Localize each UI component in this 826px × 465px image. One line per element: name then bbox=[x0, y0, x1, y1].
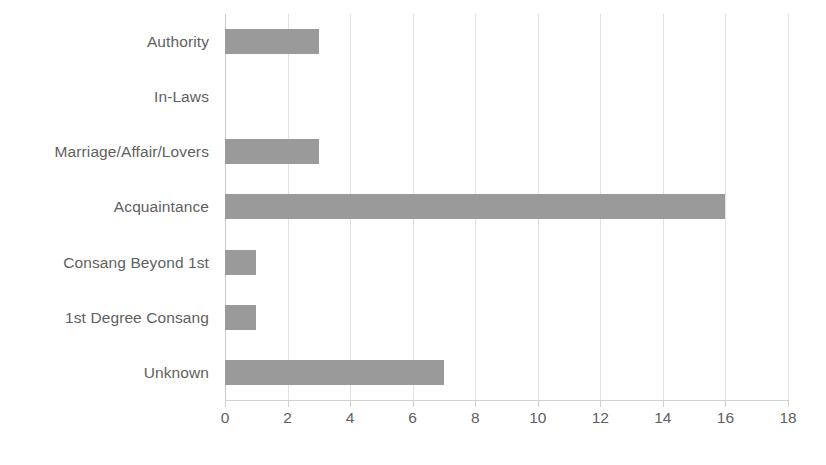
category-label-cell: Authority bbox=[0, 14, 218, 69]
category-label: Marriage/Affair/Lovers bbox=[55, 143, 209, 160]
category-label-cell: Marriage/Affair/Lovers bbox=[0, 124, 218, 179]
x-axis-tick-label: 8 bbox=[471, 409, 480, 427]
category-label: 1st Degree Consang bbox=[65, 309, 209, 326]
bar bbox=[225, 360, 444, 385]
bar-row bbox=[225, 179, 788, 234]
x-axis-tick-mark bbox=[413, 400, 414, 407]
plot-area bbox=[225, 14, 788, 400]
x-axis-tick-label: 18 bbox=[779, 409, 796, 427]
category-label: Acquaintance bbox=[114, 198, 209, 215]
x-axis-tick-mark bbox=[600, 400, 601, 407]
x-axis-tick-label: 6 bbox=[408, 409, 417, 427]
category-label-cell: In-Laws bbox=[0, 69, 218, 124]
x-axis-tick-mark bbox=[350, 400, 351, 407]
x-axis-tick-labels: 024681012141618 bbox=[225, 409, 788, 435]
bar-row bbox=[225, 345, 788, 400]
x-axis-tick-label: 12 bbox=[592, 409, 609, 427]
x-axis-tick-mark bbox=[788, 400, 789, 407]
x-axis-tick-mark bbox=[288, 400, 289, 407]
x-axis-tick-label: 16 bbox=[717, 409, 734, 427]
category-axis: AuthorityIn-LawsMarriage/Affair/LoversAc… bbox=[0, 14, 218, 400]
category-label: Unknown bbox=[144, 364, 209, 381]
bar-row bbox=[225, 290, 788, 345]
bar-row bbox=[225, 14, 788, 69]
x-axis-tick-mark bbox=[225, 400, 226, 407]
bar-row bbox=[225, 235, 788, 290]
gridline bbox=[788, 14, 789, 400]
x-axis-tick-mark bbox=[538, 400, 539, 407]
bar bbox=[225, 29, 319, 54]
bar bbox=[225, 305, 256, 330]
category-label: Authority bbox=[147, 33, 209, 50]
bar-row bbox=[225, 69, 788, 124]
x-axis-tick-label: 2 bbox=[283, 409, 292, 427]
bar bbox=[225, 194, 725, 219]
bars-layer bbox=[225, 14, 788, 400]
bar-row bbox=[225, 124, 788, 179]
x-axis-tick-mark bbox=[475, 400, 476, 407]
x-axis-tick-mark bbox=[663, 400, 664, 407]
x-axis-tick-label: 14 bbox=[654, 409, 671, 427]
x-axis-tick-mark bbox=[725, 400, 726, 407]
category-label: In-Laws bbox=[154, 88, 209, 105]
bar-chart: AuthorityIn-LawsMarriage/Affair/LoversAc… bbox=[0, 0, 826, 465]
bar bbox=[225, 139, 319, 164]
x-axis-tick-marks bbox=[225, 400, 788, 408]
bar bbox=[225, 250, 256, 275]
x-axis-tick-label: 10 bbox=[529, 409, 546, 427]
category-label-cell: Unknown bbox=[0, 345, 218, 400]
category-label-cell: Acquaintance bbox=[0, 179, 218, 234]
x-axis-tick-label: 0 bbox=[221, 409, 230, 427]
category-label-cell: 1st Degree Consang bbox=[0, 290, 218, 345]
x-axis-tick-label: 4 bbox=[346, 409, 355, 427]
category-label-cell: Consang Beyond 1st bbox=[0, 235, 218, 290]
category-label: Consang Beyond 1st bbox=[63, 254, 209, 271]
